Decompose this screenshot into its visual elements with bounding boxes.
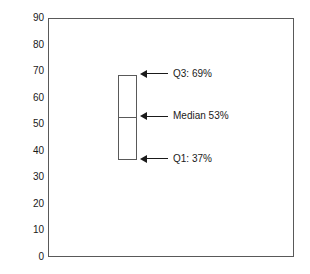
y-tick-label: 0: [18, 252, 44, 262]
annotation-leader-line: [146, 158, 168, 159]
y-tick-label: 50: [18, 119, 44, 129]
y-axis-tick-labels: 90 80 70 60 50 40 30 20 10 0: [14, 0, 44, 274]
annotation-leader-line: [146, 116, 168, 117]
annotation-median-label: Median 53%: [173, 111, 229, 121]
y-tick-label: 60: [18, 93, 44, 103]
y-tick-label: 20: [18, 199, 44, 209]
y-tick-label: 30: [18, 172, 44, 182]
box-plot-median-line: [118, 117, 137, 118]
annotation-q3-label: Q3: 69%: [173, 69, 212, 79]
boxplot-chart: Percent of Felony Charges 90 80 70 60 50…: [0, 0, 310, 274]
y-tick-label: 10: [18, 225, 44, 235]
annotation-q1: Q1: 37%: [146, 152, 212, 166]
y-tick-label: 80: [18, 40, 44, 50]
y-tick-label: 40: [18, 146, 44, 156]
annotation-q1-label: Q1: 37%: [173, 154, 212, 164]
annotation-q3: Q3: 69%: [146, 67, 212, 81]
y-tick-label: 90: [18, 13, 44, 23]
y-tick-label: 70: [18, 66, 44, 76]
annotation-leader-line: [146, 73, 168, 74]
annotation-median: Median 53%: [146, 109, 229, 123]
plot-area: [48, 18, 294, 257]
